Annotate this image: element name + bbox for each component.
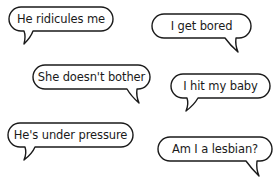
speech-bubble-6-text: Am I a lesbian?	[158, 137, 272, 161]
speech-bubble-4-text: I hit my baby	[171, 74, 270, 98]
speech-bubble-1-text: He ridicules me	[9, 7, 113, 31]
speech-bubble-3-text: She doesn't bother	[33, 65, 150, 89]
speech-bubble-2-text: I get bored	[152, 14, 251, 38]
speech-bubble-5-text: He's under pressure	[8, 123, 133, 147]
